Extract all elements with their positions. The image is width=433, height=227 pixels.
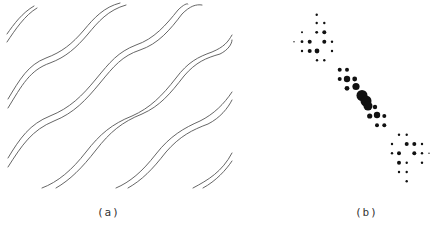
- caption-a: (a): [97, 206, 120, 219]
- wavy-lines-figure: [0, 0, 240, 227]
- wavy-line: [193, 153, 232, 188]
- wavy-line: [42, 35, 232, 188]
- wavy-line: [7, 6, 34, 34]
- wavy-line: [8, 5, 126, 108]
- wavy-line: [116, 92, 232, 188]
- caption-b: (b): [355, 206, 378, 219]
- wavy-line: [8, 5, 202, 167]
- wavy-line: [203, 161, 232, 188]
- wavy-line: [7, 8, 37, 42]
- panel-a-wavy-lines: (a): [0, 0, 240, 227]
- wavy-line: [56, 40, 232, 188]
- wavy-line: [8, 4, 188, 158]
- panel-b-diffraction-pattern: (b): [270, 0, 433, 227]
